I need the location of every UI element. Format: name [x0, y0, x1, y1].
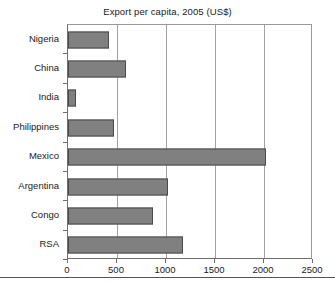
- x-axis-label: 2000: [252, 264, 273, 275]
- x-axis-tick: [263, 259, 264, 263]
- y-axis-label: China: [34, 63, 59, 73]
- x-axis-label: 1000: [154, 264, 175, 275]
- x-axis-label: 500: [108, 264, 124, 275]
- x-axis-tick: [67, 259, 68, 263]
- y-axis-tick: [63, 142, 67, 143]
- bar-row: [68, 201, 311, 230]
- x-axis-tick: [165, 259, 166, 263]
- y-axis-label: Nigeria: [29, 34, 59, 44]
- x-axis-label: 0: [64, 264, 69, 275]
- y-axis-label: Congo: [31, 210, 59, 220]
- y-axis-tick: [63, 83, 67, 84]
- x-axis-label: 2500: [301, 264, 322, 275]
- plot-area: [67, 24, 312, 259]
- bar: [68, 31, 109, 48]
- x-axis-tick: [116, 259, 117, 263]
- bar: [68, 61, 126, 78]
- x-axis-tick: [312, 259, 313, 263]
- y-axis-label: India: [38, 92, 59, 102]
- y-axis-tick: [63, 230, 67, 231]
- bar-row: [68, 172, 311, 201]
- x-axis-tick: [214, 259, 215, 263]
- chart-title: Export per capita, 2005 (US$): [0, 6, 335, 17]
- y-axis-tick: [63, 171, 67, 172]
- bar-row: [68, 143, 311, 172]
- y-axis-tick: [63, 200, 67, 201]
- y-axis-label: Philippines: [13, 122, 59, 132]
- y-axis-tick: [63, 53, 67, 54]
- bar: [68, 119, 114, 136]
- x-axis-label: 1500: [203, 264, 224, 275]
- bar-row: [68, 113, 311, 142]
- bar: [68, 237, 183, 254]
- bottom-divider: [0, 277, 335, 278]
- chart-figure: Export per capita, 2005 (US$) NigeriaChi…: [0, 0, 335, 285]
- bar: [68, 90, 76, 107]
- bar-row: [68, 231, 311, 260]
- y-axis-label: Argentina: [18, 181, 59, 191]
- bar-row: [68, 84, 311, 113]
- bar: [68, 178, 168, 195]
- y-axis-label: RSA: [39, 239, 59, 249]
- y-axis-label: Mexico: [29, 151, 59, 161]
- bar-row: [68, 54, 311, 83]
- bar: [68, 207, 153, 224]
- bar-row: [68, 25, 311, 54]
- y-axis-tick: [63, 112, 67, 113]
- bar: [68, 149, 266, 166]
